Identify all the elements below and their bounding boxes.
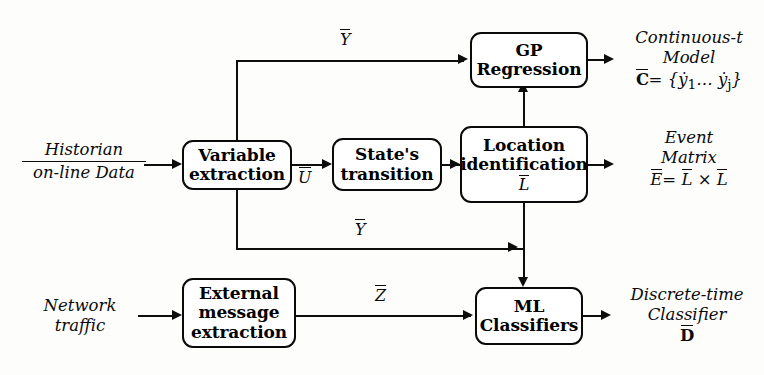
- output-discrete-classifier-symbol: D: [610, 326, 764, 346]
- signal-label-y-bottom: Y: [355, 220, 366, 239]
- output-continuous-model-formula: C= {ẏ1… ẏj}: [614, 70, 764, 93]
- arrowhead-event-matrix-output: [604, 159, 614, 169]
- arrowhead-ybar-bottom: [508, 242, 518, 252]
- box-ml-classifiers[interactable]: ML Classifiers: [475, 287, 583, 345]
- box-states-transition[interactable]: State's transition: [332, 138, 442, 191]
- box-location-identification-symbol: L: [519, 176, 530, 194]
- connector-location-identification-to-gp-regression: [523, 90, 525, 128]
- connector-variable-extraction-riser-top: [236, 60, 238, 142]
- box-variable-extraction-line2: extraction: [189, 165, 285, 184]
- input-label-historian-numerator: Historian: [22, 140, 146, 162]
- arrowhead-ybar-top: [458, 54, 468, 64]
- input-label-historian-denominator: on-line Data: [22, 162, 146, 183]
- arrowhead-z-signal: [463, 310, 473, 320]
- output-discrete-classifier-line2: Classifier: [610, 305, 764, 325]
- signal-label-z: Z: [375, 286, 386, 305]
- output-label-event-matrix: Event Matrix E= L × L: [614, 128, 764, 190]
- connector-historian-to-variable-extraction: [144, 164, 174, 166]
- box-states-transition-line2: transition: [340, 165, 433, 184]
- box-gp-regression-line1: GP: [515, 41, 542, 60]
- input-label-network-traffic: Network traffic: [28, 296, 132, 336]
- box-location-identification-line1: Location: [483, 136, 565, 155]
- box-variable-extraction[interactable]: Variable extraction: [182, 140, 292, 190]
- box-ml-classifiers-line1: ML: [514, 297, 545, 316]
- output-event-matrix-line2: Matrix: [614, 148, 764, 168]
- connector-ybar-top-to-gp-regression: [236, 60, 464, 62]
- arrowhead-states-to-location: [450, 159, 460, 169]
- box-external-message-extraction-line3: extraction: [191, 323, 287, 342]
- box-gp-regression[interactable]: GP Regression: [470, 32, 588, 88]
- connector-variable-extraction-riser-bottom: [236, 188, 238, 250]
- box-variable-extraction-line1: Variable: [198, 146, 275, 165]
- input-label-network-line1: Network: [28, 296, 132, 316]
- box-external-message-extraction-line1: External: [199, 284, 279, 303]
- output-event-matrix-formula: E= L × L: [614, 170, 764, 190]
- input-label-network-line2: traffic: [28, 316, 132, 336]
- connector-network-to-external-message-extraction: [138, 315, 174, 317]
- connector-external-message-to-ml-classifiers: [296, 315, 471, 317]
- arrowhead-historian-input: [172, 159, 182, 169]
- box-states-transition-line1: State's: [355, 145, 419, 164]
- output-discrete-classifier-line1: Discrete-time: [610, 285, 764, 305]
- box-gp-regression-line2: Regression: [477, 60, 582, 79]
- signal-label-u: U: [298, 168, 311, 187]
- connector-variable-extraction-to-states-transition: [292, 164, 324, 166]
- output-continuous-model-line1: Continuous-t: [614, 28, 764, 48]
- input-label-historian: Historian on-line Data: [22, 140, 146, 183]
- box-external-message-extraction-line2: message: [199, 303, 280, 322]
- box-external-message-extraction[interactable]: External message extraction: [182, 278, 296, 348]
- arrowhead-network-input: [172, 310, 182, 320]
- box-location-identification[interactable]: Location identification L: [460, 126, 588, 203]
- arrowhead-continuous-model-output: [604, 54, 614, 64]
- signal-label-y-top: Y: [340, 30, 351, 49]
- box-location-identification-line2: identification: [460, 155, 588, 174]
- block-diagram-canvas: Variable extraction State's transition L…: [0, 0, 764, 375]
- output-event-matrix-line1: Event: [614, 128, 764, 148]
- arrowhead-u-signal: [322, 159, 332, 169]
- output-continuous-model-line2: Model: [614, 48, 764, 68]
- output-label-continuous-model: Continuous-t Model C= {ẏ1… ẏj}: [614, 28, 764, 93]
- connector-ybar-bottom-to-ml-path: [236, 248, 524, 250]
- arrowhead-location-to-ml-classifiers: [518, 277, 528, 287]
- output-label-discrete-classifier: Discrete-time Classifier D: [610, 285, 764, 346]
- box-ml-classifiers-line2: Classifiers: [480, 316, 579, 335]
- connector-location-identification-to-ml-classifiers: [523, 203, 525, 279]
